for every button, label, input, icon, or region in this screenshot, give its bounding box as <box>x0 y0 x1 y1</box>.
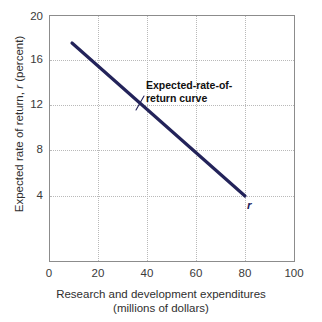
x-tick-20: 20 <box>75 268 121 280</box>
x-axis-title-line-2: (millions of dollars) <box>20 301 302 315</box>
x-tick-80: 80 <box>222 268 268 280</box>
curve-annotation-line-1: Expected-rate-of- <box>146 79 266 92</box>
annotation-leader-line <box>136 96 144 110</box>
curve-annotation: Expected-rate-of- return curve <box>146 79 266 105</box>
x-axis-tick-labels: 0 20 40 60 80 100 <box>0 268 322 284</box>
curve-annotation-line-2: return curve <box>146 92 266 105</box>
curve-endpoint-symbol-r: r <box>247 200 251 212</box>
x-tick-40: 40 <box>124 268 170 280</box>
y-axis-title-prefix: Expected rate of return, <box>13 89 25 212</box>
x-tick-100: 100 <box>271 268 317 280</box>
expected-rate-of-return-chart: 20 16 12 8 4 Expected-rate-of- return cu… <box>0 0 322 322</box>
expected-rate-of-return-curve <box>72 43 245 196</box>
y-axis-title-symbol: r <box>13 85 25 89</box>
y-axis-title-suffix: (percent) <box>13 36 25 85</box>
x-axis-title: Research and development expenditures (m… <box>20 287 302 315</box>
y-axis-title: Expected rate of return, r (percent) <box>13 24 25 224</box>
x-axis-title-line-1: Research and development expenditures <box>20 287 302 301</box>
x-tick-0: 0 <box>26 268 72 280</box>
x-tick-60: 60 <box>173 268 219 280</box>
